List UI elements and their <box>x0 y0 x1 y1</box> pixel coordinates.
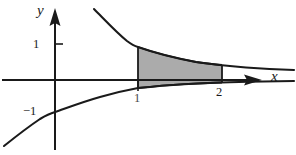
math-figure: y x 1 −1 1 2 <box>0 0 296 155</box>
x-tick-label-one: 1 <box>134 92 140 105</box>
figure-canvas <box>0 0 296 155</box>
upper-branch-curve <box>94 9 294 70</box>
x-tick-label-two: 2 <box>216 86 222 99</box>
y-tick-label-minus-one: −1 <box>23 105 36 118</box>
y-axis-label: y <box>37 3 44 18</box>
lower-branch-curve <box>4 81 294 146</box>
x-axis-label: x <box>271 69 278 84</box>
shaded-region <box>138 47 222 88</box>
y-tick-label-one: 1 <box>33 38 39 51</box>
